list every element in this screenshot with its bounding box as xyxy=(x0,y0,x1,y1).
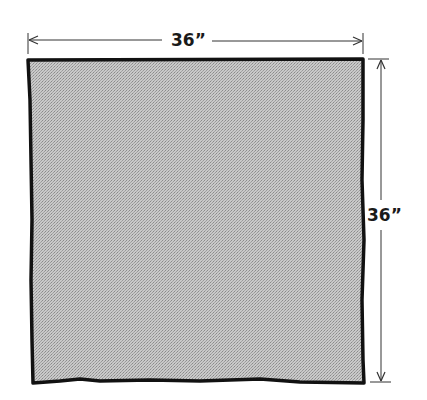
height-label: 36” xyxy=(366,207,403,224)
width-label: 36” xyxy=(168,32,209,49)
diagram-canvas xyxy=(0,0,427,400)
fabric-square xyxy=(28,59,364,383)
